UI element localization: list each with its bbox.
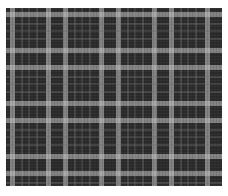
plaid-fabric-swatch (6, 8, 222, 186)
image-canvas (0, 0, 228, 196)
thread-texture (6, 8, 222, 186)
